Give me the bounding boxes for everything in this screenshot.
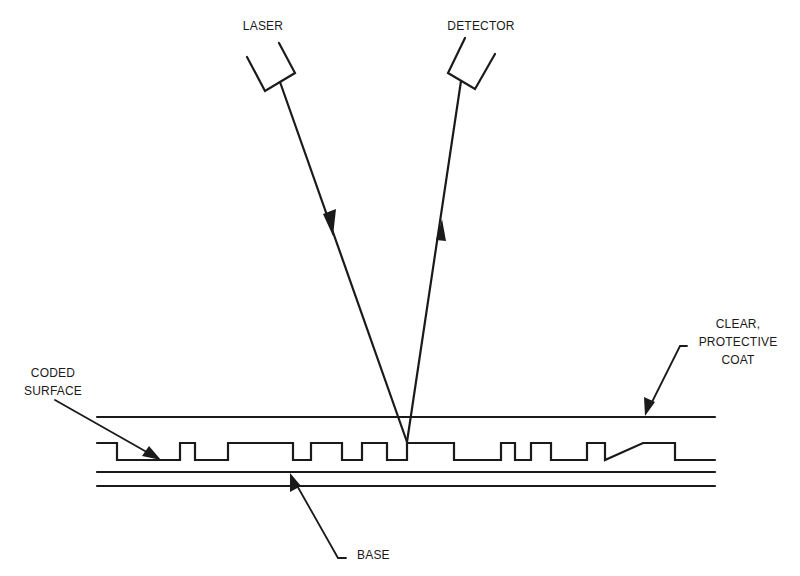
laser-housing-icon — [247, 43, 295, 91]
optical-disc-diagram: LASER DETECTOR CLEAR, PROTECTIVE COAT CO… — [0, 0, 800, 576]
incident-beam — [280, 82, 407, 442]
detector-housing-icon — [448, 38, 495, 89]
coat-label-line2: PROTECTIVE — [699, 335, 778, 349]
coat-label-line1: CLEAR, — [716, 317, 761, 331]
laser-label: LASER — [243, 19, 283, 33]
coat-label-line3: COAT — [721, 353, 755, 367]
detector-label: DETECTOR — [447, 19, 515, 33]
coded-surface-label-line2: SURFACE — [24, 384, 82, 398]
coat-callout: CLEAR, PROTECTIVE COAT — [644, 317, 777, 416]
reflected-beam — [407, 81, 461, 442]
laser-unit: LASER — [243, 19, 295, 91]
coded-surface-label-line1: CODED — [31, 366, 75, 380]
reflected-arrowhead-icon — [436, 219, 446, 241]
coded-surface-profile — [97, 443, 715, 460]
coded-surface-arrowhead-icon — [142, 446, 161, 460]
coded-surface-callout: CODED SURFACE — [24, 366, 161, 460]
base-label: BASE — [357, 548, 390, 562]
detector-unit: DETECTOR — [447, 19, 515, 89]
